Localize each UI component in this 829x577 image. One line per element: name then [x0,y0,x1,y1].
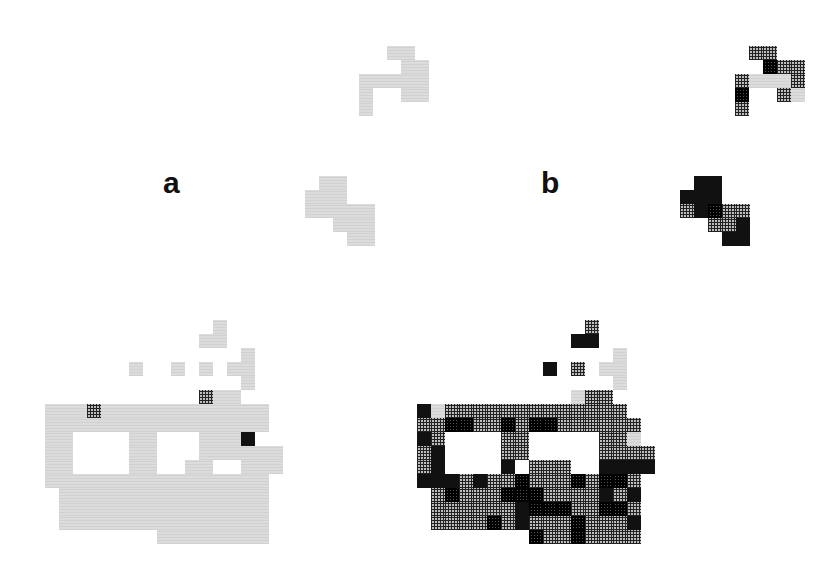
grid-cell [641,460,655,474]
grid-cell [543,362,557,376]
grid-cell [417,460,431,474]
grid-cell [708,218,722,232]
grid-cell [269,446,283,460]
grid-cell [585,404,599,418]
grid-cell [501,460,515,474]
grid-cell [459,488,473,502]
grid-cell [199,530,213,544]
grid-cell [199,418,213,432]
grid-cell [777,88,791,102]
grid-cell [501,488,515,502]
grid-cell [359,88,373,102]
grid-cell [529,460,543,474]
grid-cell [501,404,515,418]
grid-cell [361,218,375,232]
grid-cell [45,404,59,418]
grid-cell [627,502,641,516]
grid-cell [627,516,641,530]
grid-cell [73,404,87,418]
grid-cell [445,418,459,432]
grid-cell [143,502,157,516]
grid-cell [199,488,213,502]
grid-cell [529,530,543,544]
grid-cell [613,502,627,516]
grid-cell [585,516,599,530]
grid-cell [613,474,627,488]
grid-cell [115,488,129,502]
grid-cell [171,418,185,432]
grid-cell [213,530,227,544]
grid-cell [627,460,641,474]
grid-cell [129,446,143,460]
grid-cell [791,74,805,88]
grid-cell [199,404,213,418]
grid-cell [529,418,543,432]
grid-cell [571,474,585,488]
grid-cell [143,404,157,418]
grid-cell [585,334,599,348]
grid-cell [529,474,543,488]
grid-cell [515,474,529,488]
grid-cell [529,404,543,418]
grid-cell [185,460,199,474]
grid-cell [487,404,501,418]
grid-cell [599,362,613,376]
grid-cell [129,516,143,530]
grid-cell [115,502,129,516]
grid-cell [543,404,557,418]
grid-cell [73,502,87,516]
grid-cell [59,502,73,516]
grid-cell [708,204,722,218]
grid-cell [613,362,627,376]
grid-cell [585,474,599,488]
grid-cell [777,60,791,74]
grid-cell [694,190,708,204]
grid-cell [445,502,459,516]
grid-cell [227,446,241,460]
grid-cell [543,418,557,432]
grid-cell [763,46,777,60]
grid-cell [213,502,227,516]
grid-cell [59,474,73,488]
grid-cell [722,204,736,218]
grid-cell [627,530,641,544]
grid-cell [373,74,387,88]
grid-cell [599,516,613,530]
grid-cell [487,516,501,530]
grid-cell [387,46,401,60]
grid-cell [171,474,185,488]
grid-cell [199,390,213,404]
grid-cell [543,502,557,516]
grid-cell [59,418,73,432]
grid-cell [199,460,213,474]
grid-cell [213,488,227,502]
grid-cell [199,502,213,516]
grid-cell [401,88,415,102]
panel-label-a: a [163,168,180,198]
grid-cell [227,502,241,516]
grid-cell [129,362,143,376]
grid-cell [185,418,199,432]
grid-cell [255,446,269,460]
grid-cell [613,376,627,390]
grid-cell [557,418,571,432]
grid-cell [599,502,613,516]
grid-cell [213,320,227,334]
grid-cell [59,516,73,530]
grid-cell [473,418,487,432]
grid-cell [585,390,599,404]
grid-cell [431,460,445,474]
grid-cell [157,474,171,488]
grid-cell [241,460,255,474]
grid-cell [431,446,445,460]
grid-cell [45,446,59,460]
grid-cell [501,418,515,432]
grid-cell [613,460,627,474]
grid-cell [269,460,283,474]
grid-cell [736,232,750,246]
grid-cell [213,390,227,404]
grid-cell [213,432,227,446]
grid-cell [735,88,749,102]
grid-cell [557,530,571,544]
grid-cell [361,232,375,246]
